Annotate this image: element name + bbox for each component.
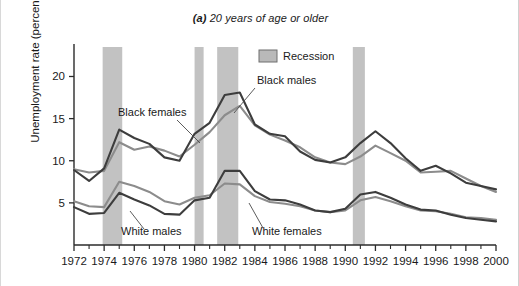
x-tick-label-1984: 1984 bbox=[242, 255, 268, 267]
x-tick-label-1992: 1992 bbox=[363, 255, 389, 267]
y-tick-label-5: 5 bbox=[59, 197, 65, 209]
x-tick-label-1982: 1982 bbox=[212, 255, 238, 267]
x-tick-label-1988: 1988 bbox=[302, 255, 328, 267]
x-tick-label-2000: 2000 bbox=[483, 255, 509, 267]
plot-area: 5101520197219741976197819801982198419861… bbox=[1, 0, 519, 286]
recession-band-3 bbox=[217, 47, 238, 245]
legend-label-recession: Recession bbox=[283, 50, 334, 62]
x-tick-label-1980: 1980 bbox=[182, 255, 208, 267]
annotation-black-males: Black males bbox=[257, 74, 317, 86]
legend-swatch-recession bbox=[259, 50, 277, 62]
x-tick-label-1990: 1990 bbox=[332, 255, 358, 267]
recession-band-4 bbox=[353, 47, 365, 245]
x-tick-label-1994: 1994 bbox=[393, 255, 419, 267]
x-tick-label-1974: 1974 bbox=[91, 255, 117, 267]
recession-band-2 bbox=[195, 47, 204, 245]
x-tick-label-1996: 1996 bbox=[423, 255, 449, 267]
x-tick-label-1972: 1972 bbox=[61, 255, 87, 267]
x-tick-label-1976: 1976 bbox=[121, 255, 147, 267]
x-tick-label-1986: 1986 bbox=[272, 255, 298, 267]
annotation-white-females: White females bbox=[252, 225, 322, 237]
x-tick-label-1978: 1978 bbox=[152, 255, 178, 267]
annotation-white-males: White males bbox=[121, 225, 182, 237]
annotation-black-females: Black females bbox=[118, 106, 187, 118]
y-tick-label-15: 15 bbox=[52, 113, 65, 125]
chart-figure: (a) 20 years of age or older Unemploymen… bbox=[0, 0, 519, 286]
x-tick-label-1998: 1998 bbox=[453, 255, 479, 267]
y-tick-label-10: 10 bbox=[52, 155, 65, 167]
y-tick-label-20: 20 bbox=[52, 70, 65, 82]
